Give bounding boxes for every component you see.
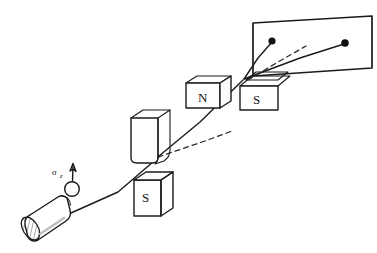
spin-arrow-shaft — [73, 166, 74, 181]
magnet2-n-label: N — [198, 90, 208, 105]
spin-subscript-label: z — [59, 172, 63, 179]
figure-canvas: σ z S — [0, 0, 377, 253]
figure-background — [0, 0, 377, 253]
spin-symbol-label: σ — [52, 167, 57, 177]
stern-gerlach-figure: σ z S — [0, 0, 377, 253]
detector-spot-upper — [341, 39, 349, 47]
magnet1-s-label: S — [142, 190, 149, 205]
magnet1-n-front-face — [131, 118, 158, 163]
magnet2-s-label: S — [253, 92, 260, 107]
detector-spot-lower — [268, 37, 275, 44]
